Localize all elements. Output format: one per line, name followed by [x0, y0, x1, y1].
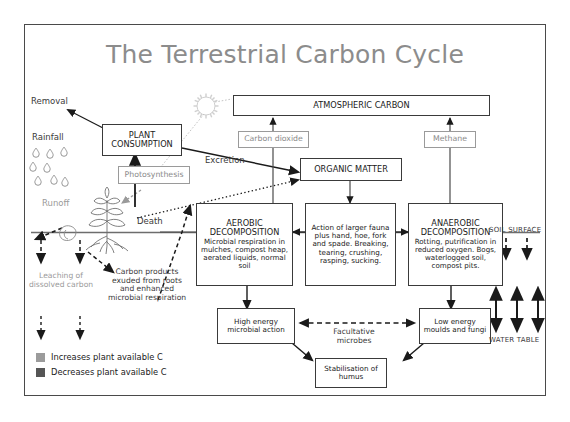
- label-water-table: WATER TABLE: [489, 336, 539, 344]
- label-facultative-microbes: Facultative microbes: [318, 328, 390, 345]
- carbon-dioxide-label: Carbon dioxide: [244, 135, 303, 144]
- label-rainfall: Rainfall: [32, 133, 64, 143]
- box-organic-matter[interactable]: ORGANIC MATTER: [300, 158, 402, 181]
- box-stabilisation-of-humus[interactable]: Stabilisation of humus: [315, 358, 387, 388]
- label-carbon-products: Carbon products exuded from roots and en…: [104, 268, 190, 303]
- legend-row-increase: Increases plant available C: [36, 352, 167, 362]
- legend-swatch-decrease: [36, 368, 45, 377]
- methane-label: Methane: [433, 135, 467, 144]
- box-aerobic-decomposition[interactable]: AEROBIC DECOMPOSITION Microbial respirat…: [196, 203, 293, 286]
- label-excretion: Excretion: [205, 156, 245, 166]
- aerobic-text: AEROBIC DECOMPOSITION Microbial respirat…: [199, 219, 290, 270]
- aerobic-body: Microbial respiration in mulches, compos…: [199, 238, 290, 270]
- label-removal: Removal: [31, 97, 68, 107]
- box-methane[interactable]: Methane: [424, 131, 476, 148]
- label-runoff: Runoff: [42, 199, 69, 209]
- low-energy-body: Low energy moulds and fungi: [422, 318, 488, 334]
- atmospheric-carbon-label: ATMOSPHERIC CARBON: [313, 101, 409, 110]
- box-low-energy[interactable]: Low energy moulds and fungi: [419, 308, 491, 344]
- legend-label-decrease: Decreases plant available C: [51, 367, 167, 377]
- anaerobic-title-line2: DECOMPOSITION: [411, 228, 500, 237]
- anaerobic-text: ANAEROBIC DECOMPOSITION Rotting, putrifi…: [411, 219, 500, 270]
- box-photosynthesis[interactable]: Photosynthesis: [118, 166, 190, 184]
- legend: Increases plant available C Decreases pl…: [36, 352, 167, 382]
- box-atmospheric-carbon[interactable]: ATMOSPHERIC CARBON: [233, 95, 490, 116]
- high-energy-body: High energy microbial action: [220, 318, 292, 334]
- stabilisation-body: Stabilisation of humus: [318, 365, 384, 381]
- label-soil-surface: SOIL SURFACE: [489, 226, 541, 234]
- aerobic-title-line2: DECOMPOSITION: [199, 228, 290, 237]
- plant-consumption-line2: CONSUMPTION: [111, 140, 172, 149]
- legend-label-increase: Increases plant available C: [51, 352, 163, 362]
- plant-consumption-text: PLANT CONSUMPTION: [111, 131, 172, 149]
- organic-matter-label: ORGANIC MATTER: [314, 165, 388, 174]
- legend-row-decrease: Decreases plant available C: [36, 367, 167, 377]
- box-high-energy[interactable]: High energy microbial action: [217, 308, 295, 344]
- legend-swatch-increase: [36, 353, 45, 362]
- photosynthesis-label: Photosynthesis: [125, 171, 184, 180]
- anaerobic-body: Rotting, putrification in reduced oxygen…: [411, 238, 500, 270]
- diagram-canvas: The Terrestrial Carbon Cycle: [0, 0, 570, 422]
- box-plant-consumption[interactable]: PLANT CONSUMPTION: [102, 124, 182, 156]
- fauna-action-body: Action of larger fauna plus hand, hoe, f…: [308, 224, 393, 264]
- label-leaching: Leaching of dissolved carbon: [22, 272, 100, 289]
- box-carbon-dioxide[interactable]: Carbon dioxide: [238, 131, 309, 148]
- box-fauna-action[interactable]: Action of larger fauna plus hand, hoe, f…: [305, 203, 396, 286]
- box-anaerobic-decomposition[interactable]: ANAEROBIC DECOMPOSITION Rotting, putrifi…: [408, 203, 503, 286]
- page-title: The Terrestrial Carbon Cycle: [0, 40, 570, 69]
- label-death: Death: [137, 217, 163, 227]
